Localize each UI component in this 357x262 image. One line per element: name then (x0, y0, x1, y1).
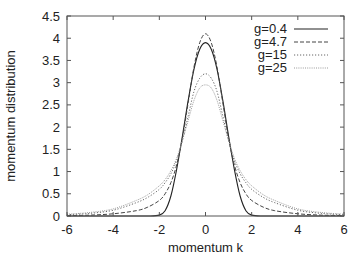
x-tick-label: 4 (294, 222, 301, 237)
series-line-g-0-4 (67, 43, 344, 216)
plot-frame (67, 16, 344, 216)
series-line-g-25 (67, 85, 344, 214)
y-axis-label: momentum distribution (3, 50, 18, 182)
momentum-distribution-chart: -6-4-2024600.511.522.533.544.5 g=0.4g=4.… (0, 0, 357, 262)
series-line-g-15 (67, 74, 344, 215)
y-tick-label: 2 (53, 120, 60, 135)
x-tick-label: 6 (340, 222, 347, 237)
y-tick-label: 0.5 (42, 186, 60, 201)
y-tick-label: 1.5 (42, 142, 60, 157)
y-tick-label: 4.5 (42, 9, 60, 24)
y-tick-label: 2.5 (42, 97, 60, 112)
legend: g=0.4g=4.7g=15g=25 (254, 21, 328, 75)
series-line-g-4-7 (67, 34, 344, 216)
x-tick-label: -4 (107, 222, 119, 237)
y-tick-label: 1 (53, 164, 60, 179)
y-tick-label: 3 (53, 75, 60, 90)
legend-label: g=25 (258, 60, 287, 75)
x-tick-label: 0 (202, 222, 209, 237)
y-tick-label: 3.5 (42, 53, 60, 68)
x-tick-label: -2 (154, 222, 166, 237)
y-tick-label: 0 (53, 209, 60, 224)
axis-ticks: -6-4-2024600.511.522.533.544.5 (42, 9, 348, 238)
x-axis-label: momentum k (168, 240, 244, 255)
x-tick-label: 2 (248, 222, 255, 237)
y-tick-label: 4 (53, 31, 60, 46)
x-tick-label: -6 (61, 222, 73, 237)
series-layer (67, 34, 344, 216)
